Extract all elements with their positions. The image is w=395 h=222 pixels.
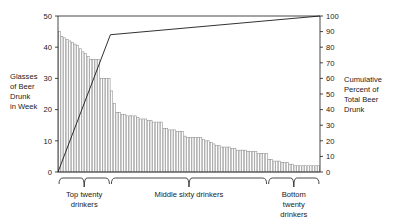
bar <box>142 119 144 172</box>
right-tick-label: 100 <box>326 12 339 21</box>
bar <box>82 52 84 172</box>
right-tick-label: 40 <box>326 105 334 114</box>
right-tick-label: 10 <box>326 152 334 161</box>
right-axis-title-line: Cumulative <box>344 75 382 84</box>
bar <box>318 166 320 172</box>
bar <box>140 119 142 172</box>
bar <box>291 164 293 172</box>
bar <box>273 161 275 172</box>
left-axis-title-line: of Beer <box>10 82 35 91</box>
bar <box>192 138 194 172</box>
bar <box>242 150 244 172</box>
bar <box>124 114 126 172</box>
right-tick-label: 0 <box>326 168 330 177</box>
bar <box>90 60 92 172</box>
left-tick-label: 40 <box>44 43 52 52</box>
group-label-bottom-twenty: twenty <box>283 200 305 209</box>
bar <box>221 147 223 172</box>
bar <box>145 119 147 172</box>
bar <box>218 145 220 172</box>
bar <box>208 141 210 172</box>
bar <box>226 147 228 172</box>
bar <box>158 122 160 172</box>
right-axis-title-line: Drunk <box>344 105 364 114</box>
bar <box>134 116 136 172</box>
bar <box>268 160 270 172</box>
right-axis-title-line: Percent of <box>344 85 380 94</box>
bar <box>263 153 265 172</box>
bar <box>297 166 299 172</box>
bar <box>223 147 225 172</box>
bar <box>176 131 178 172</box>
group-label-bottom-twenty: Bottom <box>282 190 306 199</box>
right-tick-label: 80 <box>326 43 334 52</box>
bar <box>132 116 134 172</box>
bar <box>210 142 212 172</box>
bar <box>147 121 149 172</box>
bar <box>255 152 257 172</box>
bar <box>271 160 273 172</box>
bar <box>113 103 115 172</box>
bar <box>160 122 162 172</box>
right-tick-label: 20 <box>326 137 334 146</box>
group-label-middle-sixty: Middle sixty drinkers <box>155 190 224 199</box>
bar <box>105 78 107 172</box>
left-tick-label: 0 <box>48 168 52 177</box>
left-tick-label: 10 <box>44 137 52 146</box>
bar <box>247 152 249 172</box>
bar <box>289 164 291 172</box>
bar <box>281 163 283 172</box>
right-tick-label: 50 <box>326 90 334 99</box>
bar <box>250 152 252 172</box>
bar <box>74 44 76 172</box>
bar <box>61 36 63 172</box>
bar <box>189 138 191 172</box>
bar <box>197 138 199 172</box>
bar <box>236 150 238 172</box>
bar <box>257 153 259 172</box>
bar <box>215 145 217 172</box>
group-label-bottom-twenty: drinkers <box>280 210 307 219</box>
bar <box>202 139 204 172</box>
bar <box>200 138 202 172</box>
bar <box>239 150 241 172</box>
bar <box>100 78 102 172</box>
bar <box>129 116 131 172</box>
bar <box>103 78 105 172</box>
bar <box>126 116 128 172</box>
left-axis-title-line: Glasses <box>10 72 38 81</box>
bar <box>119 113 121 172</box>
group-label-top-twenty: Top twenty <box>66 190 103 199</box>
bar <box>260 153 262 172</box>
bar <box>179 131 181 172</box>
bar <box>108 78 110 172</box>
bar <box>155 122 157 172</box>
bar <box>184 136 186 172</box>
bar <box>244 150 246 172</box>
bar <box>137 117 139 172</box>
bar <box>265 153 267 172</box>
bar <box>284 163 286 172</box>
bar <box>276 161 278 172</box>
bar <box>171 130 173 172</box>
bar <box>299 166 301 172</box>
bar <box>205 141 207 172</box>
bar <box>252 152 254 172</box>
bar <box>77 46 79 172</box>
bar <box>305 166 307 172</box>
right-tick-label: 70 <box>326 59 334 68</box>
right-tick-label: 60 <box>326 74 334 83</box>
bar <box>69 41 71 172</box>
bar <box>98 60 100 172</box>
bar <box>163 128 165 172</box>
bar <box>234 149 236 172</box>
bar <box>307 166 309 172</box>
left-axis-title-line: in Week <box>10 102 37 111</box>
bar <box>71 43 73 172</box>
bar <box>181 131 183 172</box>
left-tick-label: 50 <box>44 12 52 21</box>
bar <box>66 39 68 172</box>
bar <box>312 166 314 172</box>
right-tick-label: 30 <box>326 121 334 130</box>
bar <box>315 166 317 172</box>
